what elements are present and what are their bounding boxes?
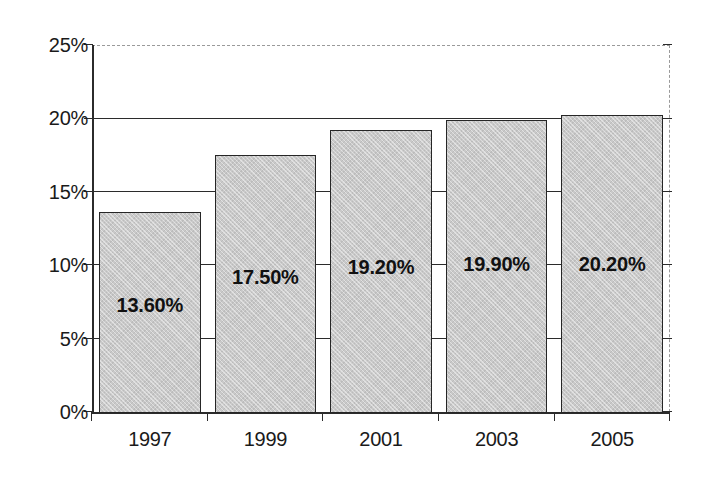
bar-value-label: 19.20%	[330, 256, 432, 279]
y-tick-right-15	[663, 191, 672, 192]
bar-chart: 0%5%10%15%20%25% 13.60%17.50%19.20%19.90…	[0, 0, 702, 479]
y-axis-label: 20%	[8, 108, 88, 128]
bar-value-label: 19.90%	[446, 253, 548, 276]
x-tick	[207, 412, 208, 421]
x-axis-category-label: 1997	[92, 428, 208, 450]
y-tick-right-25	[663, 44, 672, 45]
y-tick-right-0	[663, 411, 672, 412]
x-tick	[322, 412, 323, 421]
y-axis-label: 25%	[8, 35, 88, 55]
bar-value-label: 20.20%	[561, 253, 663, 276]
y-axis-label: 5%	[8, 329, 88, 349]
y-axis-label: 0%	[8, 402, 88, 422]
x-tick	[438, 412, 439, 421]
x-axis-category-label: 1999	[208, 428, 324, 450]
y-axis-label: 10%	[8, 255, 88, 275]
x-tick	[91, 412, 92, 421]
bar-value-label: 17.50%	[215, 266, 317, 289]
y-axis-line	[92, 45, 94, 413]
x-tick	[669, 412, 670, 421]
y-tick-right-10	[663, 264, 672, 265]
x-axis-category-label: 2001	[323, 428, 439, 450]
y-tick-right-20	[663, 118, 672, 119]
y-tick-right-5	[663, 338, 672, 339]
y-axis-label: 15%	[8, 182, 88, 202]
x-tick	[554, 412, 555, 421]
bar-value-label: 13.60%	[99, 294, 201, 317]
x-axis-category-label: 2005	[554, 428, 670, 450]
x-axis-category-label: 2003	[439, 428, 555, 450]
